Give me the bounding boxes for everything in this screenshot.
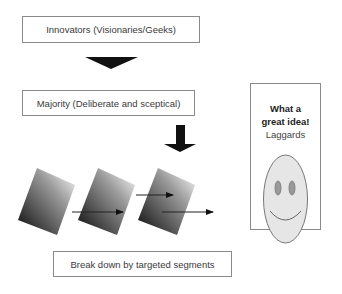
segment-3-icon (138, 168, 195, 235)
segments-label: Break down by targeted segments (70, 259, 214, 270)
down-triangle-arrow-icon (85, 57, 138, 69)
segment-1-icon (18, 168, 75, 235)
segment-2-icon (78, 168, 135, 235)
laggards-label: Laggards (250, 128, 321, 141)
laggards-quote-line1: What a (250, 102, 321, 115)
innovators-label: Innovators (Visionaries/Geeks) (46, 24, 176, 35)
diagram-canvas (0, 0, 342, 294)
smiley-face-icon (264, 155, 308, 243)
segments-box: Break down by targeted segments (53, 251, 232, 277)
laggards-text: What a great idea! Laggards (250, 102, 321, 141)
laggards-quote-line2: great idea! (250, 115, 321, 128)
innovators-box: Innovators (Visionaries/Geeks) (22, 16, 200, 43)
majority-label: Majority (Deliberate and sceptical) (37, 98, 181, 109)
down-block-arrow-icon (164, 125, 196, 152)
majority-box: Majority (Deliberate and sceptical) (22, 90, 195, 116)
